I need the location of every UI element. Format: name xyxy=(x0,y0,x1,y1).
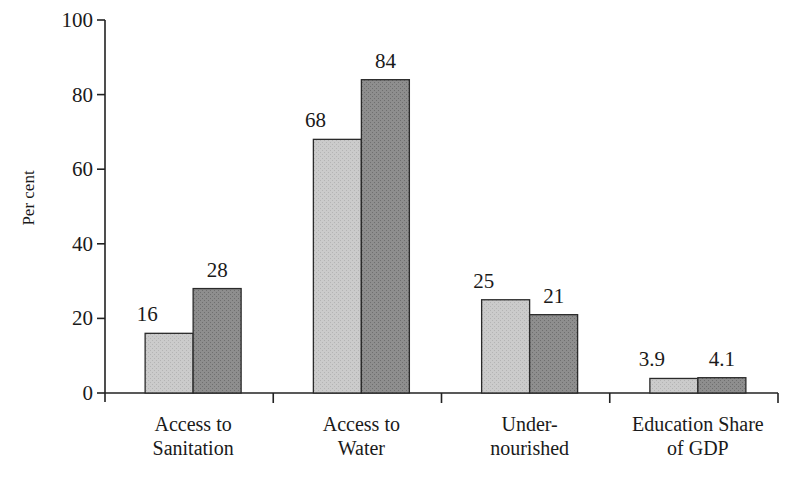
bar xyxy=(313,139,361,393)
bars xyxy=(145,80,746,393)
y-tick-label: 20 xyxy=(72,306,93,330)
category-label: Under- xyxy=(502,413,558,435)
category-label: nourished xyxy=(490,437,569,459)
y-axis-title: Per cent xyxy=(19,170,38,226)
bar xyxy=(530,315,578,393)
value-label: 4.1 xyxy=(709,347,735,371)
value-label: 21 xyxy=(543,284,564,308)
category-label: Access to xyxy=(155,413,232,435)
y-axis: 020406080100Per cent xyxy=(19,8,105,405)
x-axis xyxy=(105,393,778,403)
value-label: 3.9 xyxy=(639,347,665,371)
bar xyxy=(145,333,193,393)
value-label: 84 xyxy=(375,49,397,73)
bar xyxy=(650,378,698,393)
y-tick-label: 40 xyxy=(72,232,93,256)
category-label: Education Share xyxy=(632,413,764,435)
bar xyxy=(193,289,241,393)
y-tick-label: 80 xyxy=(72,83,93,107)
y-tick-label: 100 xyxy=(62,8,94,32)
bar xyxy=(482,300,530,393)
bar xyxy=(361,80,409,393)
category-label: Sanitation xyxy=(153,437,234,459)
bar-chart: 020406080100Per cent 1628Access toSanita… xyxy=(0,0,786,478)
value-label: 25 xyxy=(473,269,494,293)
y-tick-label: 0 xyxy=(83,381,94,405)
y-tick-label: 60 xyxy=(72,157,93,181)
bar xyxy=(698,378,746,393)
value-label: 16 xyxy=(137,302,158,326)
labels: 1628Access toSanitation6884Access toWate… xyxy=(137,49,764,459)
value-label: 28 xyxy=(207,258,228,282)
category-label: of GDP xyxy=(667,437,729,459)
category-label: Water xyxy=(338,437,386,459)
value-label: 68 xyxy=(305,108,326,132)
category-label: Access to xyxy=(323,413,400,435)
